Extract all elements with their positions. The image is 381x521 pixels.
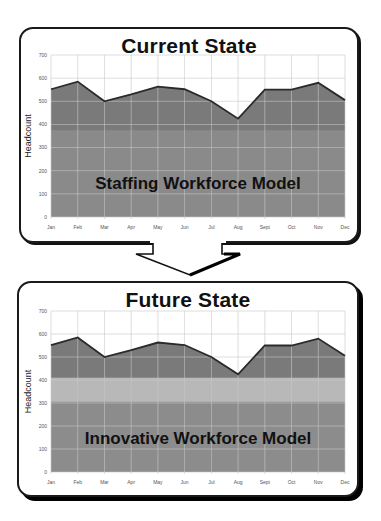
x-tick-label: Nov (314, 479, 323, 485)
x-tick-label: Jan (47, 479, 55, 485)
x-tick-label: Dec (341, 479, 350, 485)
future-state-chart: 0100200300400500600700JanFebMarAprMayJun… (0, 0, 381, 521)
x-tick-label: Aug (234, 479, 243, 485)
y-tick-label: 200 (39, 423, 48, 429)
y-tick-label: 400 (39, 377, 48, 383)
x-tick-label: Oct (288, 479, 296, 485)
x-tick-label: Mar (100, 479, 109, 485)
y-tick-label: 0 (44, 469, 47, 475)
model-annotation: Innovative Workforce Model (85, 429, 311, 448)
y-tick-label: 100 (39, 446, 48, 452)
y-axis-label: Headcount (23, 369, 33, 413)
y-tick-label: 700 (39, 308, 48, 314)
y-tick-label: 600 (39, 331, 48, 337)
x-tick-label: Feb (73, 479, 82, 485)
x-tick-label: Jun (181, 479, 189, 485)
band-flexible (51, 378, 345, 402)
y-tick-label: 300 (39, 400, 48, 406)
x-tick-label: May (153, 479, 163, 485)
x-tick-label: Sept (260, 479, 271, 485)
y-tick-label: 500 (39, 354, 48, 360)
x-tick-label: Jul (208, 479, 214, 485)
x-tick-label: Apr (127, 479, 135, 485)
